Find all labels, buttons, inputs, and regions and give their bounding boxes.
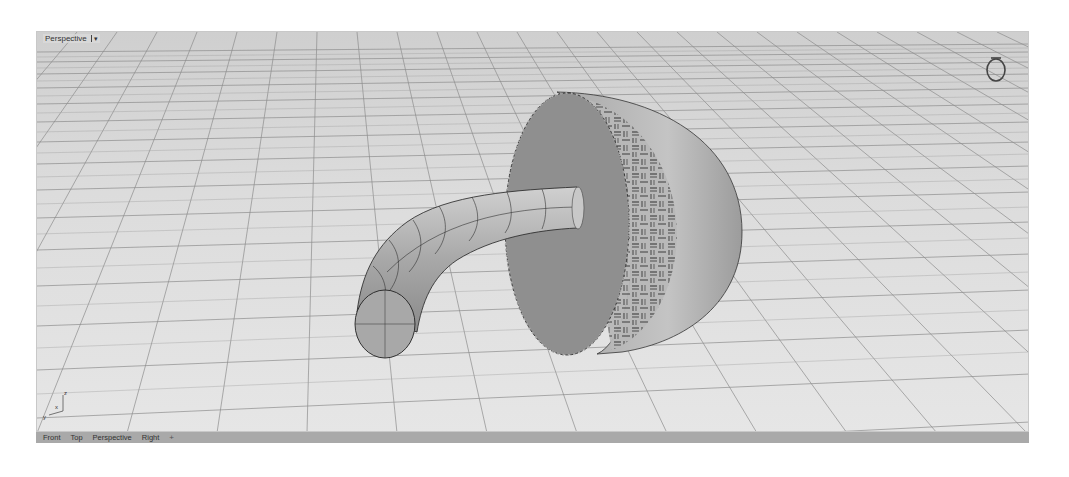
3d-scene[interactable] (37, 32, 1029, 432)
svg-text:x: x (55, 404, 58, 410)
viewport-tab-bar: Front Top Perspective Right + (36, 432, 1029, 443)
rotate-view-icon[interactable] (982, 52, 1010, 84)
tab-perspective[interactable]: Perspective (88, 433, 137, 442)
tab-right[interactable]: Right (137, 433, 165, 442)
perspective-viewport[interactable]: Perspective▾ y x z (36, 31, 1029, 432)
svg-text:z: z (64, 390, 67, 396)
tab-front[interactable]: Front (36, 433, 66, 442)
viewport-title-menu[interactable]: Perspective▾ (43, 34, 100, 43)
svg-text:y: y (43, 414, 46, 420)
tab-top[interactable]: Top (66, 433, 88, 442)
viewport-title: Perspective (45, 34, 87, 43)
add-viewport-tab-icon[interactable]: + (164, 433, 179, 442)
chevron-down-icon: ▾ (91, 35, 98, 42)
world-axes-icon: y x z (41, 383, 81, 423)
